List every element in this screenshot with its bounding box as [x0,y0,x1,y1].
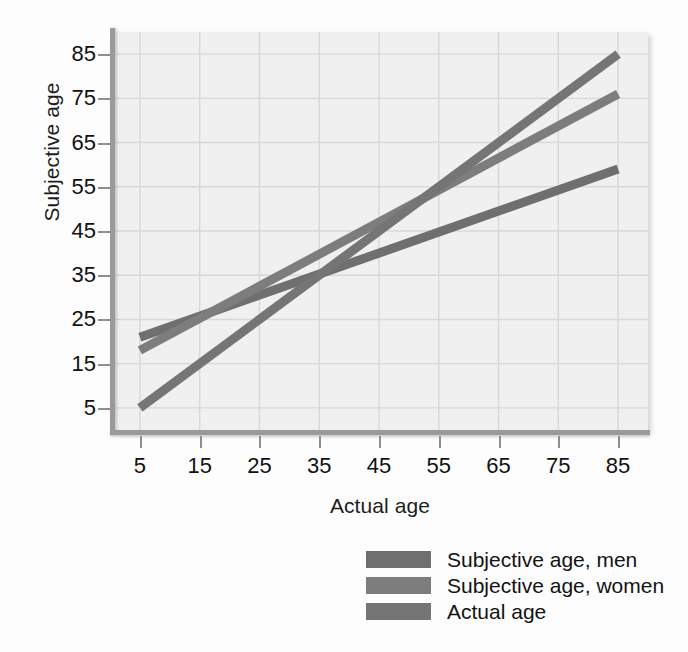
x-tick-label: 25 [229,455,289,477]
x-tick-mark [140,436,142,448]
y-tick-label: 35 [32,264,96,286]
y-tick-label: 75 [32,87,96,109]
chart-legend: Subjective age, menSubjective age, women… [366,546,666,624]
x-tick-label: 45 [349,455,409,477]
legend-item: Actual age [366,598,666,624]
x-tick-mark [319,436,321,448]
plot-svg [110,32,648,430]
legend-label: Subjective age, men [447,549,637,570]
plot-area [110,32,648,430]
legend-swatch [366,577,431,594]
legend-swatch [366,603,431,620]
legend-label: Subjective age, women [447,575,664,596]
y-tick-label: 55 [32,176,96,198]
legend-label: Actual age [447,601,546,622]
legend-swatch [366,551,431,568]
y-tick-label: 85 [32,43,96,65]
x-tick-label: 65 [469,455,529,477]
x-tick-label: 5 [110,455,170,477]
x-axis-title: Actual age [110,494,650,518]
x-tick-mark [379,436,381,448]
x-tick-mark [259,436,261,448]
legend-item: Subjective age, women [366,572,666,598]
x-tick-label: 85 [588,455,648,477]
y-tick-label-group: 51525354555657585 [24,0,96,652]
x-tick-label: 15 [170,455,230,477]
x-tick-mark [558,436,560,448]
y-axis-spine [110,28,115,434]
y-tick-label: 15 [32,353,96,375]
x-tick-label: 35 [289,455,349,477]
y-tick-label: 5 [32,397,96,419]
y-tick-label: 25 [32,308,96,330]
legend-item: Subjective age, men [366,546,666,572]
y-tick-label: 65 [32,132,96,154]
x-axis-spine [110,430,650,435]
x-tick-mark [499,436,501,448]
x-tick-label: 55 [409,455,469,477]
x-tick-label: 75 [528,455,588,477]
x-tick-mark [439,436,441,448]
chart-figure: Subjective age 51525354555657585 5152535… [0,0,688,652]
x-tick-mark [200,436,202,448]
x-tick-mark [618,436,620,448]
y-tick-label: 45 [32,220,96,242]
